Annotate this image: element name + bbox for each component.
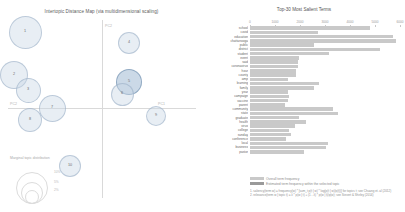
salient-terms-title: Top-30 Most Salient Terms	[203, 7, 405, 12]
x-axis-tick-4000: 4000	[346, 20, 353, 24]
topic-bubble-label: 9	[155, 114, 157, 118]
marginal-legend-tick-10pct: 10%	[54, 170, 60, 174]
bar-row[interactable]: pastor	[203, 150, 405, 154]
topic-bubble-label: 3	[27, 88, 29, 92]
intertopic-map-title: Intertopic Distance Map (via multidimens…	[0, 9, 203, 14]
footnote-group: 1. saliency(term w) = frequency(w) * [su…	[250, 189, 405, 197]
x-axis-tick-3000: 3000	[321, 20, 328, 24]
salient-terms-panel: Top-30 Most Salient Terms 01000200030004…	[203, 0, 405, 212]
topic-bubble-label: 1	[24, 30, 26, 34]
topic-bubble-label: 5	[128, 80, 130, 84]
bar-track	[250, 150, 400, 154]
topic-bubble-1[interactable]: 1	[9, 16, 42, 49]
x-axis-tick-5000: 5000	[371, 20, 378, 24]
x-axis-tick-0: 0	[249, 20, 251, 24]
bar-chart-legend: Overall term frequency Estimated term fr…	[250, 176, 400, 186]
marginal-topic-distribution-legend: Marginal topic distribution 2%5%10%	[10, 156, 102, 208]
bar-overall-frequency	[250, 150, 304, 154]
axis-label-pc1: PC1	[158, 102, 165, 106]
overall-frequency-swatch	[250, 177, 264, 180]
axis-label-pc2-secondary: PC2	[10, 102, 17, 106]
topic-bubble-label: 2	[13, 73, 15, 77]
legend-item-estimated: Estimated term frequency within the sele…	[250, 181, 400, 186]
topic-bubble-8[interactable]: 8	[18, 108, 42, 132]
topic-bubble-label: 7	[51, 106, 53, 110]
topic-bubble-label: 6	[121, 92, 123, 96]
topic-bubble-7[interactable]: 7	[39, 95, 66, 122]
intertopic-distance-panel: Intertopic Distance Map (via multidimens…	[0, 0, 203, 212]
legend-label-estimated: Estimated term frequency within the sele…	[266, 182, 339, 186]
marginal-legend-tick-2pct: 2%	[54, 188, 59, 192]
marginal-legend-circle-10pct	[16, 172, 48, 204]
topic-bubble-label: 8	[29, 118, 31, 122]
x-axis-tick-2000: 2000	[296, 20, 303, 24]
x-axis-tick-6000: 6000	[396, 20, 403, 24]
marginal-legend-title: Marginal topic distribution	[10, 156, 50, 160]
topic-model-visualization: Intertopic Distance Map (via multidimens…	[0, 0, 405, 212]
topic-bubble-3[interactable]: 3	[16, 78, 41, 103]
topic-bubble-9[interactable]: 9	[146, 106, 166, 126]
marginal-legend-tick-5pct: 5%	[54, 180, 59, 184]
topic-bubble-4[interactable]: 4	[118, 32, 140, 54]
bar-term-label: pastor	[204, 150, 248, 154]
topic-bubble-label: 4	[128, 41, 130, 45]
axis-label-pc2: PC2	[105, 24, 112, 28]
legend-label-overall: Overall term frequency	[266, 177, 299, 181]
footnote-relevance: 2. relevance(term w | topic t) = λ * p(w…	[250, 193, 405, 197]
x-axis-tick-1000: 1000	[271, 20, 278, 24]
y-axis-line	[102, 20, 103, 198]
topic-bubble-6[interactable]: 6	[111, 83, 134, 106]
bar-chart-rows: schoolcovideducationchattanoogapublicdis…	[203, 26, 405, 154]
estimated-frequency-swatch	[250, 182, 264, 185]
